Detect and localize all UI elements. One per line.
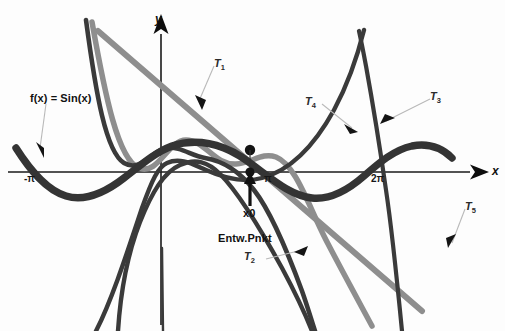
y-axis-label: y	[155, 13, 162, 25]
x-axis-label: x	[492, 165, 499, 177]
t2-label: T2	[244, 251, 255, 265]
t4-label-text: T	[305, 95, 312, 107]
figure-canvas	[0, 0, 505, 331]
taylor-polynomial-figure: f(x) = Sin(x) y x -π π 2π x0 Entw.Pnkt T…	[0, 0, 505, 331]
taylor-degree-3-curve	[96, 30, 364, 331]
leader-arrowhead-t4	[344, 124, 358, 134]
t1-label-text: T	[214, 57, 221, 69]
t5-label-text: T	[465, 200, 472, 212]
t3-label: T3	[430, 91, 441, 105]
leader-line-t1	[199, 66, 214, 101]
leader-line-t5	[452, 209, 465, 243]
t5-label: T5	[465, 201, 476, 215]
t3-label-sub: 3	[437, 96, 441, 105]
x-tick-label-2pi: 2π	[371, 174, 384, 184]
leader-arrowhead-t5	[446, 234, 456, 248]
t2-label-sub: 2	[251, 256, 255, 265]
t1-label-sub: 1	[221, 63, 225, 72]
t5-label-sub: 5	[472, 206, 476, 215]
x-tick-label-neg-pi: -π	[24, 174, 35, 184]
t3-label-text: T	[430, 90, 437, 102]
leader-line-sine	[40, 104, 46, 148]
x0-label: x0	[243, 208, 255, 219]
x-tick-label-pi: π	[264, 174, 272, 184]
t1-label: T1	[214, 58, 225, 72]
taylor-left-vertical-curve	[162, 248, 163, 331]
t2-label-text: T	[244, 250, 251, 262]
taylor-degree-4-curve	[86, 20, 315, 331]
t4-label: T4	[305, 96, 316, 110]
leader-arrowhead-t3	[380, 114, 395, 124]
x-axis-arrowhead	[470, 165, 489, 180]
expansion-point-label: Entw.Pnkt	[218, 233, 272, 244]
t4-label-sub: 4	[312, 101, 316, 110]
function-label: f(x) = Sin(x)	[30, 93, 92, 104]
